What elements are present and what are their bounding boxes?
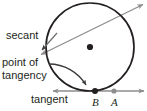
point-a-dot xyxy=(111,88,116,93)
secant-label: secant xyxy=(6,29,38,41)
point-b-dot xyxy=(92,88,98,94)
point-of-tangency-label: point of tangency xyxy=(2,56,47,82)
point-of-tangency-leader-arrow xyxy=(49,64,86,85)
tangent-label: tangent xyxy=(31,93,68,105)
point-b-label: B xyxy=(92,97,99,108)
circle-center-dot xyxy=(87,44,93,50)
point-a-label: A xyxy=(111,97,118,108)
point-of-tangency-label-line2: tangency xyxy=(2,69,47,82)
geometry-figure: secant point of tangency tangent B A xyxy=(0,0,147,111)
point-of-tangency-label-line1: point of xyxy=(2,56,47,69)
